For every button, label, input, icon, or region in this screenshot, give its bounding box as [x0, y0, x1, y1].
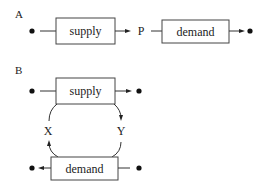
panel-a-source-dot	[29, 28, 34, 33]
panel-a-arrowhead	[239, 29, 245, 33]
panel-a-arrowhead	[125, 29, 131, 33]
panel-b-x-arc-top	[49, 104, 57, 121]
panel-b-x-arrowhead	[47, 140, 51, 146]
panel-b-demand-source-dot	[136, 165, 141, 170]
panel-b-supply-sink-dot	[136, 88, 141, 93]
panel-b-label: B	[15, 64, 22, 76]
panel-a-supply-label: supply	[69, 24, 101, 38]
panel-b-y-arrowhead	[119, 115, 123, 121]
panel-b-arrowhead	[126, 89, 132, 93]
panel-b-demand-label: demand	[66, 162, 104, 176]
panel-b-y-label: Y	[117, 124, 126, 138]
panel-b-supply-source-dot	[29, 88, 34, 93]
panel-a-demand-label: demand	[177, 25, 215, 39]
diagram: A supply P demand B supply Y X demand	[0, 0, 263, 185]
panel-a-label: A	[15, 8, 23, 20]
panel-b-x-label: X	[44, 124, 53, 138]
panel-b-y-arc-bottom	[112, 142, 121, 157]
panel-b-demand-sink-dot	[29, 165, 34, 170]
panel-a-sink-dot	[247, 28, 252, 33]
panel-b-supply-label: supply	[69, 84, 101, 98]
panel-b-arrowhead	[38, 166, 44, 170]
panel-a-p-label: P	[138, 24, 145, 38]
